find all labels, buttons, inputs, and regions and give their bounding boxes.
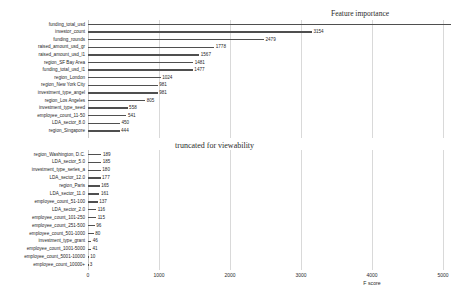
- bar[interactable]: [88, 154, 101, 155]
- bar-row-label: region_SF Bay Area: [44, 60, 85, 66]
- bar-value-label: 185: [103, 159, 111, 165]
- bar-value-label: 805: [147, 98, 155, 104]
- gridline: [443, 150, 444, 270]
- top-panel-title: Feature importance: [331, 9, 389, 18]
- bar[interactable]: [88, 225, 95, 226]
- bar[interactable]: [88, 100, 145, 101]
- bar[interactable]: [88, 31, 312, 32]
- bar[interactable]: [88, 92, 158, 93]
- bar-value-label: 115: [98, 215, 105, 221]
- bar-row-label: employee_count_5001-10000: [24, 254, 85, 260]
- bar[interactable]: [88, 130, 120, 131]
- bar-row[interactable]: region_Singapore444: [88, 126, 443, 135]
- bar[interactable]: [88, 85, 158, 86]
- bar-row-label: raised_amount_usd_gr: [38, 44, 85, 50]
- truncated-note: truncated for viewability: [175, 141, 254, 150]
- bar[interactable]: [88, 62, 193, 63]
- bar-row-label: region_New York City: [41, 82, 85, 88]
- bar-value-label: 541: [128, 113, 136, 119]
- bar-row-label: region_Paris: [59, 183, 85, 189]
- x-axis: 010002000300040005000F score: [88, 272, 443, 286]
- bar-value-label: 3154: [313, 29, 323, 35]
- bar-value-label: 41: [92, 246, 97, 252]
- bar[interactable]: [88, 185, 100, 186]
- bar-row-label: employee_count_11-50: [37, 113, 85, 119]
- feature-importance-figure: Feature importance funding_total_usd7246…: [0, 0, 451, 299]
- bar-value-label: 1567: [201, 52, 211, 58]
- bottom-chart-panel: region_Washington, D.C.189LDA_sector_5.0…: [88, 150, 443, 270]
- bar-row-label: funding_total_usd: [49, 22, 85, 28]
- bar-row-label: investment_type_angel: [38, 90, 85, 96]
- bar[interactable]: [88, 209, 96, 210]
- bar[interactable]: [88, 54, 199, 55]
- bar-value-label: 116: [98, 207, 105, 213]
- bar-value-label: 80: [95, 231, 100, 237]
- bar-value-label: 444: [121, 128, 129, 134]
- bar-value-label: 137: [99, 199, 107, 205]
- bar-row-label: LDA_sector_11.0: [50, 191, 85, 197]
- bar-row-label: funding_rounds: [53, 37, 85, 43]
- bar-row-label: employee_count_251-500: [32, 223, 85, 229]
- bar[interactable]: [88, 69, 193, 70]
- bar-row[interactable]: employee_count_10000+3: [88, 261, 443, 270]
- bar[interactable]: [88, 249, 91, 250]
- bar[interactable]: [88, 24, 451, 25]
- x-axis-tick-label: 4000: [366, 272, 377, 278]
- bar[interactable]: [88, 217, 96, 218]
- bar-row-label: employee_count_51-100: [34, 199, 85, 205]
- bar-value-label: 1481: [195, 60, 205, 66]
- bar-row-label: investment_type_grant: [39, 238, 85, 244]
- bar-row-label: LDA_sector_12.0: [50, 175, 86, 181]
- bar[interactable]: [88, 162, 101, 163]
- bar-value-label: 10: [90, 254, 95, 260]
- bottom-plot-area: region_Washington, D.C.189LDA_sector_5.0…: [88, 150, 443, 270]
- bar[interactable]: [88, 233, 94, 234]
- bar-value-label: 2479: [266, 37, 276, 43]
- bar-container: 444: [88, 126, 129, 135]
- bar[interactable]: [88, 177, 101, 178]
- bar[interactable]: [88, 170, 101, 171]
- top-chart-panel: funding_total_usd7246investor_count3154f…: [88, 20, 443, 138]
- bar-value-label: 981: [159, 90, 167, 96]
- bar[interactable]: [88, 47, 214, 48]
- bar-value-label: 165: [101, 183, 109, 189]
- bar-row-label: employee_count_10000+: [33, 262, 85, 268]
- bar[interactable]: [88, 107, 128, 108]
- bar-row-label: LDA_sector_2.0: [52, 207, 85, 213]
- bar-row-label: investment_type_series_a: [32, 167, 85, 173]
- bar-row-label: employee_count_101-250: [32, 215, 85, 221]
- bar[interactable]: [88, 201, 98, 202]
- bar-value-label: 1024: [162, 75, 172, 81]
- bar-value-label: 96: [96, 223, 101, 229]
- x-axis-tick-label: 2000: [224, 272, 235, 278]
- bar-container: 3: [88, 261, 92, 270]
- bar[interactable]: [88, 256, 89, 257]
- bar-row-label: region_Los Angeles: [45, 98, 85, 104]
- bar-row-label: LDA_sector_8.0: [52, 120, 85, 126]
- bar-row-label: employee_count_1001-5000: [27, 246, 85, 252]
- bar[interactable]: [88, 123, 120, 124]
- x-axis-tick-label: 1000: [153, 272, 164, 278]
- bar[interactable]: [88, 241, 91, 242]
- bar-value-label: 1778: [216, 44, 226, 50]
- bar[interactable]: [88, 77, 161, 78]
- bar[interactable]: [88, 115, 126, 116]
- bar-value-label: 981: [159, 82, 167, 88]
- bar-value-label: 189: [103, 152, 111, 158]
- x-axis-tick-label: 3000: [295, 272, 306, 278]
- bar[interactable]: [88, 39, 264, 40]
- top-plot-area: funding_total_usd7246investor_count3154f…: [88, 20, 443, 138]
- gridline: [443, 20, 444, 138]
- bar-row-label: region_London: [54, 75, 85, 81]
- bar-row-label: raised_amount_usd_l1: [39, 52, 85, 58]
- x-axis-title: F score: [363, 280, 380, 286]
- bar-value-label: 3: [90, 262, 93, 268]
- x-axis-tick-label: 5000: [437, 272, 448, 278]
- bar-row-label: region_Washington, D.C.: [34, 152, 85, 158]
- bar-row-label: region_Singapore: [49, 128, 85, 134]
- bar-row-label: LDA_sector_5.0: [52, 159, 85, 165]
- bar-row-label: employee_count_501-1000: [29, 231, 85, 237]
- bar-row-label: investment_type_seed: [39, 105, 85, 111]
- bar-value-label: 177: [102, 175, 110, 181]
- bar[interactable]: [88, 193, 99, 194]
